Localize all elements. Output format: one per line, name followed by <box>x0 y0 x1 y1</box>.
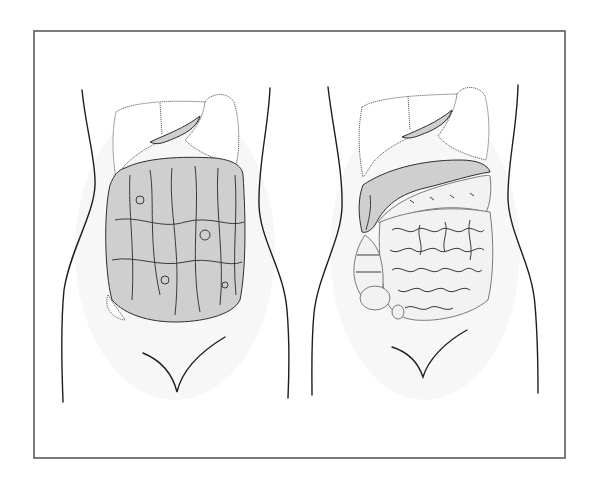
left-panel-torso <box>62 88 289 402</box>
right-small-intestine <box>379 209 493 321</box>
anatomy-figure <box>0 0 595 486</box>
left-omentum-thickened <box>106 157 245 322</box>
right-panel-torso <box>312 85 538 400</box>
